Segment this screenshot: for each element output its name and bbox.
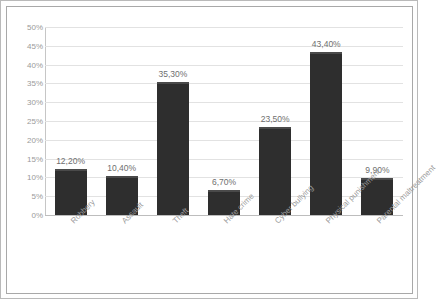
plot-area: 12,20%10,40%35,30%6,70%23,50%43,40%9,90% (45, 27, 403, 215)
y-axis-tick-label: 40% (9, 60, 43, 69)
y-axis-tick-label: 30% (9, 98, 43, 107)
bar[interactable] (259, 127, 291, 215)
bar-slot: 12,20% (45, 27, 96, 215)
x-axis-tick-slot: Cyber bullying (250, 217, 301, 295)
y-axis-tick-label: 50% (9, 23, 43, 32)
bar[interactable] (157, 82, 189, 215)
bar-value-label: 12,20% (56, 156, 85, 166)
x-axis-tick-slot: Theft (147, 217, 198, 295)
bar-slot: 6,70% (198, 27, 249, 215)
x-axis: RobberyAssaultTheftHate crimeCyber bully… (45, 217, 403, 295)
bar-slot: 10,40% (96, 27, 147, 215)
y-axis-tick-label: 10% (9, 173, 43, 182)
x-axis-tick-slot: Robbery (45, 217, 96, 295)
x-axis-tick-slot: Assault (96, 217, 147, 295)
bar-value-label: 43,40% (312, 39, 341, 49)
x-axis-tick-slot: Hate crime (198, 217, 249, 295)
bar-value-label: 10,40% (107, 163, 136, 173)
y-axis-tick-label: 20% (9, 135, 43, 144)
y-axis-tick-label: 45% (9, 41, 43, 50)
bar-slot: 35,30% (147, 27, 198, 215)
bar[interactable] (310, 52, 342, 215)
y-axis-tick-label: 15% (9, 154, 43, 163)
x-axis-tick-slot: Physical punishment (301, 217, 352, 295)
y-axis-tick-label: 5% (9, 192, 43, 201)
chart-inner-frame: 0%5%10%15%20%25%30%35%40%45%50% 12,20%10… (6, 6, 413, 294)
bar-slot: 23,50% (250, 27, 301, 215)
y-axis-tick-label: 35% (9, 79, 43, 88)
y-axis-tick-label: 25% (9, 117, 43, 126)
y-axis: 0%5%10%15%20%25%30%35%40%45%50% (7, 27, 43, 215)
bar-value-label: 23,50% (261, 114, 290, 124)
x-axis-tick-slot: Parental maltreatment (352, 217, 403, 295)
bar-value-label: 35,30% (158, 69, 187, 79)
bar-value-label: 6,70% (212, 177, 236, 187)
y-axis-tick-label: 0% (9, 211, 43, 220)
